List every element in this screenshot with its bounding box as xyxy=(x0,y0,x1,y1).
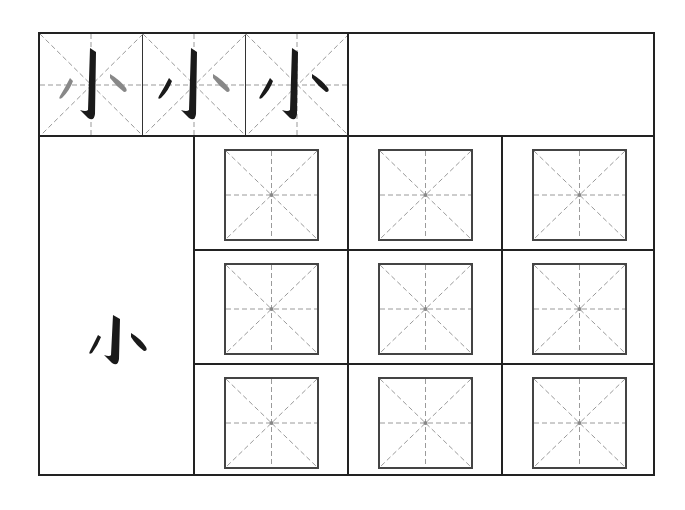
practice-cell[interactable] xyxy=(195,137,347,249)
practice-cell[interactable] xyxy=(503,365,655,477)
mi-grid-guide-icon xyxy=(226,265,317,353)
practice-cell[interactable] xyxy=(349,365,501,477)
mi-grid-guide-icon xyxy=(380,265,471,353)
mi-grid-guide-icon xyxy=(534,265,625,353)
practice-cell[interactable] xyxy=(503,137,655,249)
stroke-step-2-icon xyxy=(143,34,246,136)
mi-grid-box xyxy=(378,263,473,355)
stroke-step-1-icon xyxy=(40,34,143,136)
mi-grid-box xyxy=(532,263,627,355)
stroke-order-cell-1 xyxy=(40,34,143,136)
mi-grid-guide-icon xyxy=(226,379,317,467)
mi-grid-box xyxy=(224,149,319,241)
model-character-cell: 小 xyxy=(40,137,194,474)
model-character-icon xyxy=(40,137,194,474)
mi-grid-guide-icon xyxy=(226,151,317,239)
stroke-order-cell-2 xyxy=(143,34,246,136)
mi-grid-guide-icon xyxy=(534,151,625,239)
mi-grid-guide-icon xyxy=(380,151,471,239)
mi-grid-box xyxy=(378,149,473,241)
mi-grid-box xyxy=(532,377,627,469)
practice-cell[interactable] xyxy=(195,365,347,477)
practice-cell[interactable] xyxy=(349,137,501,249)
mi-grid-box xyxy=(224,263,319,355)
mi-grid-guide-icon xyxy=(534,379,625,467)
writing-worksheet: 小 xyxy=(38,32,655,476)
practice-cell[interactable] xyxy=(503,251,655,363)
practice-cell[interactable] xyxy=(195,251,347,363)
stroke-step-3-icon xyxy=(246,34,349,136)
practice-cell[interactable] xyxy=(349,251,501,363)
mi-grid-box xyxy=(224,377,319,469)
stroke-order-cell-3 xyxy=(246,34,349,136)
mi-grid-box xyxy=(378,377,473,469)
mi-grid-guide-icon xyxy=(380,379,471,467)
mi-grid-box xyxy=(532,149,627,241)
stroke-order-blank-area xyxy=(349,34,653,136)
